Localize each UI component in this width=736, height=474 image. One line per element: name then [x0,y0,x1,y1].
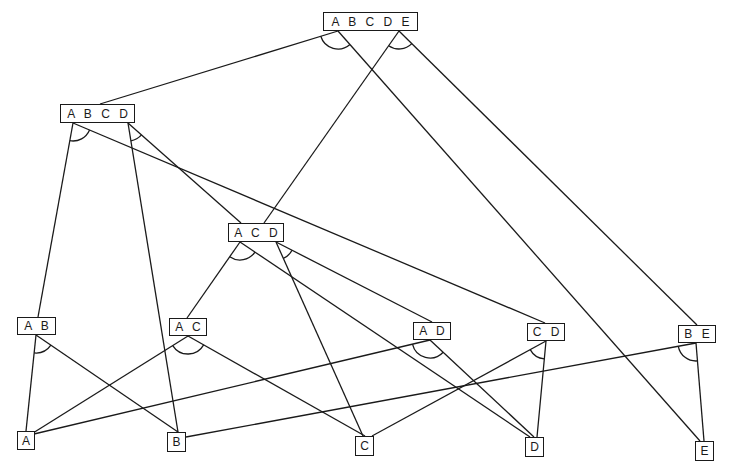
node-ad[interactable]: A D [413,322,451,340]
edge-layer [0,0,736,474]
and-arc-icon [34,345,51,353]
node-label: B E [681,327,712,341]
edge-abcd-b [128,123,178,432]
edge-ab-a [26,335,36,431]
node-label: E [700,444,708,458]
and-arc-icon [389,44,412,49]
edge-abcde-e [338,31,700,441]
and-or-graph: A B C D E A B C D A C D A B A C A D C D … [0,0,736,474]
node-e[interactable]: E [695,441,714,461]
node-label: A D [416,324,447,338]
node-ac[interactable]: A C [169,318,207,336]
edge-abcd-ab [38,123,73,317]
node-label: A B C D [64,107,131,121]
node-label: B [172,435,180,449]
node-d[interactable]: D [525,437,544,457]
node-acd[interactable]: A C D [228,223,284,242]
node-label: A C [172,320,203,334]
and-arc-icon [173,345,204,354]
node-label: C D [530,325,563,339]
edge-acd-d [240,242,530,437]
edge-ac-c [188,336,365,436]
node-cd[interactable]: C D [527,323,565,341]
edge-abcde-acd [264,31,399,223]
and-arc-icon [283,250,292,258]
edge-ad-a [34,340,430,434]
node-a[interactable]: A [17,431,35,450]
edge-cd-c [372,341,546,436]
edge-cd-d [537,341,546,437]
edge-abcde-abcd [100,31,338,104]
and-arc-icon [321,36,350,49]
and-arc-icon [230,252,255,260]
node-label: D [530,440,539,454]
node-label: A [22,434,30,448]
node-label: A C D [231,226,280,240]
node-label: A B C D E [328,15,412,29]
and-arc-icon [70,130,90,141]
node-label: C [360,439,369,453]
and-arc-icon [530,350,544,359]
node-abcde[interactable]: A B C D E [323,12,418,31]
node-be[interactable]: B E [678,325,716,343]
and-arc-icon [412,344,443,358]
node-b[interactable]: B [167,432,186,452]
node-abcd[interactable]: A B C D [60,104,135,123]
node-c[interactable]: C [355,436,374,456]
edge-be-b [186,343,696,437]
edge-be-e [696,343,704,441]
edge-ac-a [33,336,188,433]
and-arc-icon [678,346,697,361]
edge-abcd-acd [128,123,241,223]
node-ab[interactable]: A B [17,317,56,335]
and-arc-icon [131,135,142,141]
node-label: A B [21,319,52,333]
edge-abcde-be [399,31,697,325]
edge-acd-ac [187,242,240,318]
